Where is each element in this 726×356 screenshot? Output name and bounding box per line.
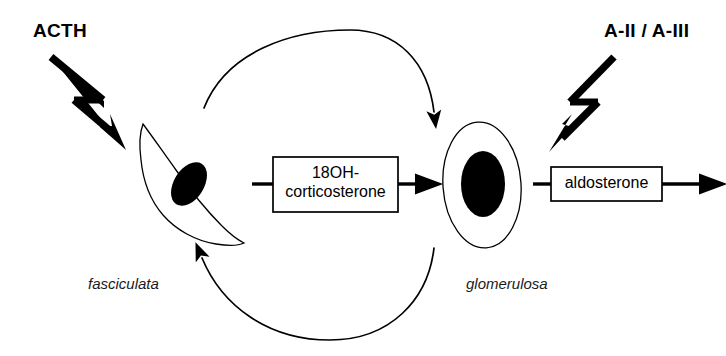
adrenal-pathway-figure: ACTH A-II / A-III fasciculata glomerulos… [0,0,726,356]
fasciculata-cell [140,124,244,245]
glomerulosa-label: glomerulosa [466,276,548,291]
box-18oh-line1: 18OH- [274,163,397,182]
acth-bolt-arrow-icon [51,57,126,150]
fasciculata-label: fasciculata [88,276,159,291]
angiotensin-label: A-II / A-III [604,21,689,40]
glomerulosa-cell [439,119,526,250]
box-aldosterone-label: aldosterone [553,173,660,192]
top-arc-arrow [204,30,434,112]
bottom-arc-arrow [202,248,434,340]
box-18oh-label: 18OH- corticosterone [274,163,397,201]
glomerulosa-nucleus [461,151,505,217]
angiotensin-bolt-arrow-icon [549,57,614,152]
acth-label: ACTH [33,21,87,40]
box-18oh-line2: corticosterone [274,182,397,201]
